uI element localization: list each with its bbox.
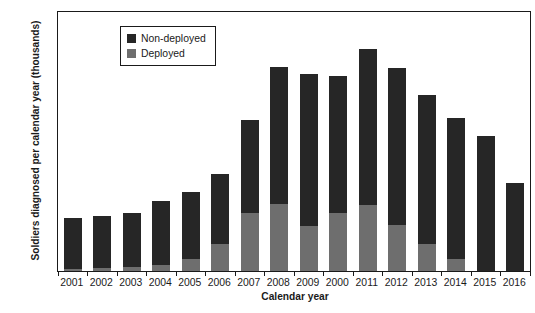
bar-segment-non-deployed <box>447 118 465 259</box>
bar-group <box>447 12 465 271</box>
bar-group <box>388 12 406 271</box>
bar-segment-non-deployed <box>329 76 347 213</box>
legend-label-deployed: Deployed <box>141 48 185 59</box>
bar-segment-non-deployed <box>93 216 111 269</box>
x-tick-label: 2015 <box>473 277 496 288</box>
legend-item-non-deployed: Non-deployed <box>127 31 206 46</box>
bar-group <box>270 12 288 271</box>
legend-swatch-non-deployed-icon <box>127 34 136 43</box>
bar-segment-deployed <box>123 267 141 271</box>
x-tick-label: 2000 <box>326 277 349 288</box>
x-tick-label: 2013 <box>414 277 437 288</box>
x-tick-label: 2002 <box>90 277 113 288</box>
x-tick-label: 2006 <box>208 277 231 288</box>
legend-swatch-deployed-icon <box>127 49 136 58</box>
bar-segment-non-deployed <box>477 136 495 271</box>
bar-segment-deployed <box>359 205 377 271</box>
legend-label-non-deployed: Non-deployed <box>141 33 206 44</box>
y-axis-title: Soldiers diagnosed per calendar year (th… <box>30 6 41 276</box>
bar-segment-deployed <box>152 265 170 271</box>
x-tick-label: 2004 <box>149 277 172 288</box>
bar-segment-deployed <box>300 226 318 271</box>
x-tick-label: 2003 <box>119 277 142 288</box>
bar-group <box>241 12 259 271</box>
bar-segment-non-deployed <box>152 201 170 265</box>
bar-segment-deployed <box>270 204 288 271</box>
bar-segment-non-deployed <box>211 174 229 244</box>
bar-segment-deployed <box>241 213 259 271</box>
x-tick-label: 2005 <box>178 277 201 288</box>
bar-segment-non-deployed <box>506 183 524 271</box>
x-tick-label: 2008 <box>267 277 290 288</box>
x-tick-label: 2014 <box>444 277 467 288</box>
bar-segment-non-deployed <box>300 74 318 226</box>
bar-segment-non-deployed <box>270 67 288 204</box>
bar-segment-non-deployed <box>359 49 377 204</box>
legend-item-deployed: Deployed <box>127 46 206 61</box>
bar-segment-non-deployed <box>418 95 436 244</box>
bar-segment-deployed <box>93 268 111 271</box>
chart-legend: Non-deployed Deployed <box>120 26 216 66</box>
bar-group <box>418 12 436 271</box>
x-tick-label: 2016 <box>503 277 526 288</box>
x-tick-label: 2009 <box>296 277 319 288</box>
bar-group <box>477 12 495 271</box>
x-axis-title: Calendar year <box>60 291 530 302</box>
bar-segment-non-deployed <box>123 213 141 267</box>
bar-segment-deployed <box>211 244 229 271</box>
bar-segment-deployed <box>388 225 406 271</box>
bar-group <box>506 12 524 271</box>
bar-segment-deployed <box>447 259 465 271</box>
x-tick-label: 2001 <box>60 277 83 288</box>
bar-segment-deployed <box>418 244 436 271</box>
bar-group <box>300 12 318 271</box>
bar-segment-deployed <box>182 259 200 271</box>
bar-segment-non-deployed <box>388 68 406 225</box>
bar-segment-non-deployed <box>241 120 259 213</box>
bar-group <box>329 12 347 271</box>
x-tick-label: 2007 <box>237 277 260 288</box>
bar-group <box>64 12 82 271</box>
bar-segment-non-deployed <box>64 218 82 269</box>
stacked-bar-chart: Soldiers diagnosed per calendar year (th… <box>0 0 535 313</box>
bar-group <box>359 12 377 271</box>
bar-segment-non-deployed <box>182 192 200 258</box>
x-tick-label: 2012 <box>385 277 408 288</box>
bar-segment-deployed <box>64 269 82 271</box>
bar-group <box>93 12 111 271</box>
bar-segment-deployed <box>329 213 347 271</box>
x-tick-label: 2011 <box>356 277 378 288</box>
plot-area: Non-deployed Deployed <box>57 11 531 272</box>
